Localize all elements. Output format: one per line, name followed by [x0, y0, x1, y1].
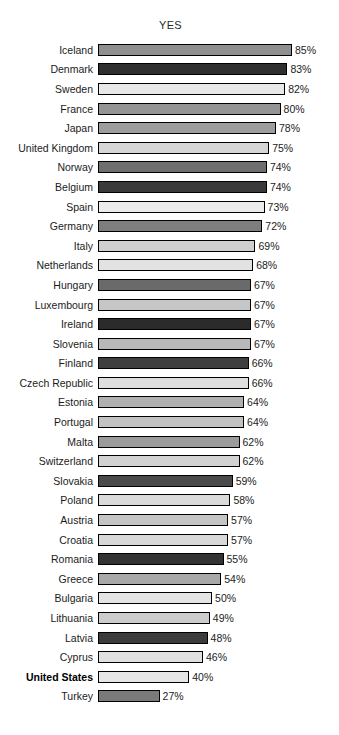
bar-row-label: Belgium [0, 181, 98, 193]
bar [98, 416, 244, 428]
bar-row-label: Spain [0, 201, 98, 213]
bar-value-label: 62% [243, 455, 264, 467]
bar-row-label: France [0, 103, 98, 115]
bar [98, 514, 228, 526]
bar-row: Malta62% [0, 432, 339, 452]
bar [98, 632, 208, 644]
bar [98, 573, 221, 585]
bar-track: 50% [98, 589, 339, 609]
bar-track: 67% [98, 295, 339, 315]
bar-row-label: Luxembourg [0, 299, 98, 311]
bar-value-label: 83% [290, 63, 311, 75]
bar-row-label: United States [0, 671, 98, 683]
bar-row-label: Cyprus [0, 651, 98, 663]
bar-row-label: Iceland [0, 44, 98, 56]
bar-track: 69% [98, 236, 339, 256]
bar-value-label: 54% [224, 573, 245, 585]
bar-track: 27% [98, 687, 339, 707]
bar [98, 220, 262, 232]
bar-row: Turkey27% [0, 687, 339, 707]
bar-track: 85% [98, 40, 339, 60]
bar-value-label: 67% [254, 318, 275, 330]
bar-value-label: 27% [163, 690, 184, 702]
bar [98, 612, 210, 624]
bar-row: Sweden82% [0, 79, 339, 99]
bar-row-label: Latvia [0, 632, 98, 644]
bar-row: Croatia57% [0, 530, 339, 550]
bar-row-label: Lithuania [0, 612, 98, 624]
bar-value-label: 73% [268, 201, 289, 213]
bar-value-label: 67% [254, 299, 275, 311]
bar-row-label: Czech Republic [0, 377, 98, 389]
bar-row-label: Croatia [0, 534, 98, 546]
bar-value-label: 85% [295, 44, 316, 56]
bar-row: Netherlands68% [0, 256, 339, 276]
bar-value-label: 67% [254, 279, 275, 291]
bar-value-label: 64% [247, 396, 268, 408]
bar-value-label: 78% [279, 122, 300, 134]
bar-track: 54% [98, 569, 339, 589]
bar [98, 377, 249, 389]
bar-row: Bulgaria50% [0, 589, 339, 609]
bar-row: Switzerland62% [0, 451, 339, 471]
bar-row-label: Finland [0, 357, 98, 369]
bar-row-label: Bulgaria [0, 592, 98, 604]
bar-row-label: Romania [0, 553, 98, 565]
bar-row: Estonia64% [0, 393, 339, 413]
bar-value-label: 64% [247, 416, 268, 428]
bar [98, 357, 249, 369]
bar-row-label: Switzerland [0, 455, 98, 467]
bar [98, 396, 244, 408]
bar-row: Iceland85% [0, 40, 339, 60]
bar [98, 103, 281, 115]
bar [98, 553, 224, 565]
bar-track: 73% [98, 197, 339, 217]
bar [98, 690, 160, 702]
bar-row: Lithuania49% [0, 608, 339, 628]
bar-row: Japan78% [0, 118, 339, 138]
bar-row-label: Sweden [0, 83, 98, 95]
bar-track: 67% [98, 314, 339, 334]
bar-row-label: Estonia [0, 396, 98, 408]
bar-track: 80% [98, 99, 339, 119]
bar-track: 55% [98, 549, 339, 569]
bar [98, 240, 255, 252]
bar [98, 181, 267, 193]
bar-rows-container: Iceland85%Denmark83%Sweden82%France80%Ja… [0, 40, 339, 706]
bar-track: 74% [98, 177, 339, 197]
bar-value-label: 48% [211, 632, 232, 644]
bar-value-label: 68% [256, 259, 277, 271]
bar-track: 58% [98, 491, 339, 511]
bar-chart: YES Iceland85%Denmark83%Sweden82%France8… [0, 0, 339, 735]
bar-row-label: Austria [0, 514, 98, 526]
bar [98, 534, 228, 546]
bar-value-label: 57% [231, 514, 252, 526]
bar-row-label: Poland [0, 494, 98, 506]
bar-track: 46% [98, 647, 339, 667]
bar-track: 83% [98, 60, 339, 80]
bar-row: Czech Republic66% [0, 373, 339, 393]
bar-row: Slovenia67% [0, 334, 339, 354]
bar-track: 57% [98, 510, 339, 530]
bar-value-label: 46% [206, 651, 227, 663]
bar-track: 72% [98, 216, 339, 236]
bar [98, 318, 251, 330]
bar-row-label: Norway [0, 161, 98, 173]
bar-row: Poland58% [0, 491, 339, 511]
bar-value-label: 72% [265, 220, 286, 232]
bar-row: Latvia48% [0, 628, 339, 648]
bar-row: Cyprus46% [0, 647, 339, 667]
bar-value-label: 67% [254, 338, 275, 350]
bar-value-label: 66% [252, 377, 273, 389]
bar-row: Ireland67% [0, 314, 339, 334]
bar [98, 436, 240, 448]
bar-row: Romania55% [0, 549, 339, 569]
bar-track: 64% [98, 393, 339, 413]
bar [98, 475, 233, 487]
bar-row: Spain73% [0, 197, 339, 217]
bar [98, 44, 292, 56]
bar-row-label: Portugal [0, 416, 98, 428]
bar-row-label: Turkey [0, 690, 98, 702]
bar-track: 62% [98, 432, 339, 452]
bar [98, 122, 276, 134]
